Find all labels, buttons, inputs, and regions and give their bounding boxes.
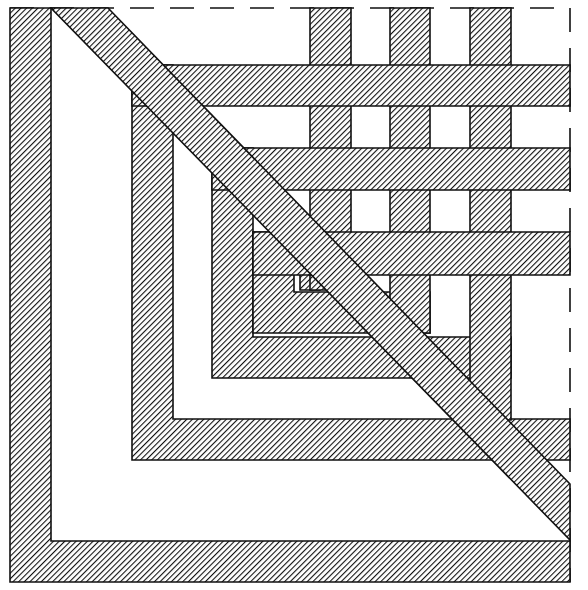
shape-layer <box>10 8 570 582</box>
diagram-canvas <box>0 0 588 590</box>
